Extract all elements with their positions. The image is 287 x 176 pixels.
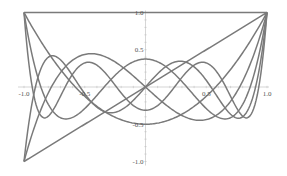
y-tick-label: 1.0: [135, 9, 144, 17]
x-tick-label: -1.0: [18, 90, 30, 98]
x-tick-label: 0.5: [202, 90, 211, 98]
y-tick-label: -0.5: [132, 121, 144, 129]
x-tick-label: 1.0: [263, 90, 272, 98]
y-tick-label: 0.5: [135, 46, 144, 54]
y-tick-label: -1.0: [132, 158, 144, 166]
legendre-polynomials-chart: -1.0-0.50.51.01.00.5-0.5-1.0: [0, 0, 287, 176]
x-tick-label: -0.5: [79, 90, 91, 98]
